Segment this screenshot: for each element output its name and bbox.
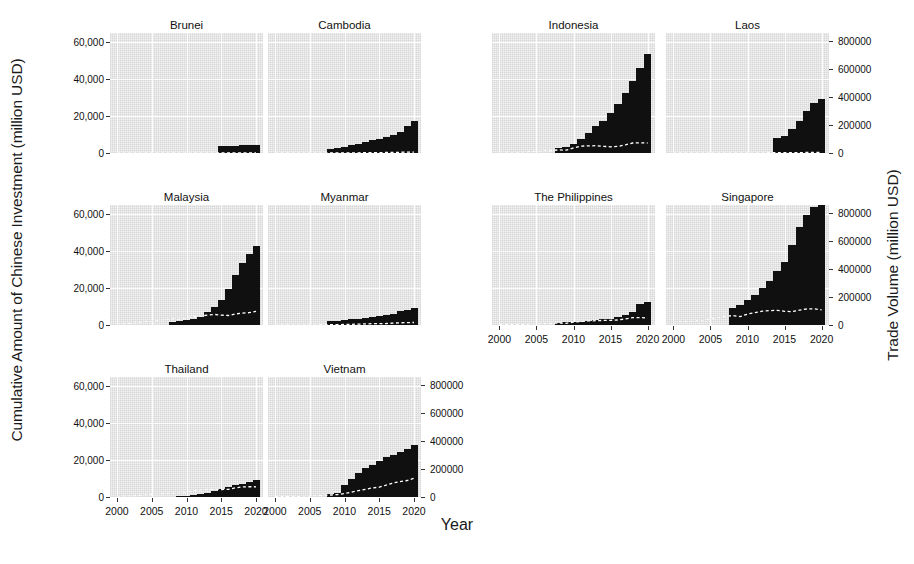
plot-panel [110,33,263,153]
facet-cambodia: Cambodia [268,18,421,153]
y-axis-left-tick-label: 20,000 [62,455,104,466]
y-axis-left-tick-mark [106,325,110,326]
trade-volume-line [110,33,263,153]
plot-panel [110,205,263,325]
y-axis-right-tick-mark [421,385,425,386]
x-axis-tick-mark [345,498,346,502]
y-axis-right-tick-mark [829,69,833,70]
x-axis-tick-mark [187,498,188,502]
facet-malaysia: Malaysia [110,190,263,325]
plot-panel [268,377,421,497]
y-axis-right-tick-mark [829,125,833,126]
y-axis-right-tick-mark [421,413,425,414]
y-axis-right-tick-mark [829,97,833,98]
trade-volume-line [268,205,421,325]
x-axis-tick-mark [221,498,222,502]
x-axis-tick-mark [785,326,786,330]
x-axis-tick-mark [822,326,823,330]
y-axis-left-tick-label: 40,000 [62,418,104,429]
x-axis-tick-mark [256,498,257,502]
plot-panel [492,205,655,325]
facet-title: Myanmar [268,190,421,204]
x-axis-tick-mark [748,326,749,330]
y-axis-right-tick-mark [829,41,833,42]
x-axis-tick-label: 2015 [599,333,622,345]
y-axis-right-tick-mark [829,241,833,242]
facet-the-philippines: The Philippines [492,190,655,325]
facet-title: Laos [666,18,829,32]
x-axis-tick-label: 2005 [298,505,321,517]
trade-volume-line [492,33,655,153]
x-axis-tick-mark [152,498,153,502]
facet-title: Singapore [666,190,829,204]
y-axis-left-tick-label: 0 [62,320,104,331]
x-axis-tick-label: 2010 [175,505,198,517]
x-axis-tick-mark [379,498,380,502]
y-axis-left-tick-mark [106,423,110,424]
x-axis-tick-mark [574,326,575,330]
facet-laos: Laos [666,18,829,153]
plot-panel [110,377,263,497]
y-axis-right-title: Trade Volume (million USD) [878,30,908,500]
y-axis-left-tick-label: 20,000 [62,283,104,294]
y-axis-right-tick-label: 600000 [430,408,463,419]
y-axis-left-tick-mark [106,460,110,461]
y-axis-left-tick-mark [106,214,110,215]
trade-volume-line [268,33,421,153]
y-axis-left-tick-label: 20,000 [62,111,104,122]
x-axis-tick-label: 2015 [368,505,391,517]
plot-panel [666,33,829,153]
y-axis-right-tick-label: 200000 [430,464,463,475]
x-axis-tick-label: 2015 [210,505,233,517]
plot-panel [268,205,421,325]
x-axis-tick-label: 2005 [699,333,722,345]
x-axis-tick-mark [536,326,537,330]
trade-volume-line [268,377,421,497]
x-axis-tick-mark [673,326,674,330]
plot-panel [268,33,421,153]
plot-panel [666,205,829,325]
y-axis-right-tick-mark [829,297,833,298]
y-axis-left-tick-mark [106,386,110,387]
x-axis-title: Year [0,516,914,534]
x-axis-tick-label: 2000 [105,505,128,517]
y-axis-right-title-text: Trade Volume (million USD) [884,169,902,361]
y-axis-right-tick-mark [421,469,425,470]
y-axis-right-tick-label: 0 [430,492,436,503]
y-axis-right-tick-mark [421,497,425,498]
facet-singapore: Singapore [666,190,829,325]
x-axis-tick-mark [414,498,415,502]
x-axis-tick-mark [275,498,276,502]
x-axis-tick-label: 2010 [562,333,585,345]
y-axis-left-tick-label: 40,000 [62,246,104,257]
facet-vietnam: Vietnam [268,362,421,497]
trade-volume-line [110,377,263,497]
trade-volume-line [666,205,829,325]
y-axis-right-tick-mark [829,213,833,214]
x-axis-tick-label: 2000 [488,333,511,345]
y-axis-left-tick-mark [106,497,110,498]
facet-title: Vietnam [268,362,421,376]
facet-title: Cambodia [268,18,421,32]
y-axis-left-title-text: Cumulative Amount of Chinese Investment … [8,58,26,441]
y-axis-right-tick-label: 400000 [838,264,871,275]
y-axis-left-tick-label: 0 [62,492,104,503]
plot-panel [492,33,655,153]
facet-title: Brunei [110,18,263,32]
y-axis-right-tick-label: 200000 [838,120,871,131]
y-axis-right-tick-label: 600000 [838,64,871,75]
x-axis-tick-label: 2005 [525,333,548,345]
x-axis-tick-mark [117,498,118,502]
y-axis-left-tick-label: 60,000 [62,209,104,220]
x-axis-tick-mark [648,326,649,330]
y-axis-left-tick-mark [106,116,110,117]
y-axis-right-tick-mark [829,325,833,326]
y-axis-left-tick-mark [106,153,110,154]
y-axis-right-tick-label: 800000 [430,380,463,391]
facet-title: Indonesia [492,18,655,32]
facet-brunei: Brunei [110,18,263,153]
x-axis-tick-label: 2000 [263,505,286,517]
y-axis-right-tick-label: 800000 [838,208,871,219]
x-axis-tick-label: 2005 [140,505,163,517]
y-axis-right-tick-label: 800000 [838,36,871,47]
